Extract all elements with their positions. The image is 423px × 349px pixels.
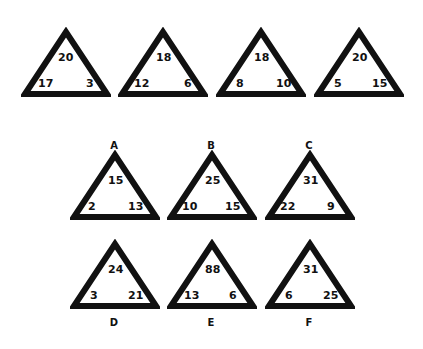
top-number: 18 <box>254 52 269 63</box>
option-triangle-c[interactable]: 31 22 9 <box>265 150 355 222</box>
top-number: 20 <box>58 52 73 63</box>
top-number: 18 <box>156 52 171 63</box>
example-triangle-1: 20 17 3 <box>21 27 111 99</box>
example-triangle-4: 20 5 15 <box>314 27 404 99</box>
option-triangle-e[interactable]: 88 13 6 <box>167 239 257 311</box>
top-number: 31 <box>303 264 318 275</box>
left-number: 12 <box>134 78 149 89</box>
option-label-f: F <box>299 317 319 328</box>
right-number: 9 <box>327 201 335 212</box>
top-number: 88 <box>205 264 220 275</box>
option-triangle-f[interactable]: 31 6 25 <box>265 239 355 311</box>
option-label-e: E <box>201 317 221 328</box>
option-label-d: D <box>104 317 124 328</box>
left-number: 5 <box>334 78 342 89</box>
top-number: 25 <box>205 175 220 186</box>
right-number: 6 <box>184 78 192 89</box>
right-number: 21 <box>128 290 143 301</box>
right-number: 3 <box>86 78 94 89</box>
right-number: 25 <box>323 290 338 301</box>
left-number: 8 <box>236 78 244 89</box>
example-triangle-3: 18 8 10 <box>216 27 306 99</box>
option-triangle-b[interactable]: 25 10 15 <box>167 150 257 222</box>
option-triangle-d[interactable]: 24 3 21 <box>70 239 160 311</box>
right-number: 13 <box>128 201 143 212</box>
left-number: 2 <box>88 201 96 212</box>
top-number: 24 <box>108 264 123 275</box>
top-number: 15 <box>108 175 123 186</box>
left-number: 6 <box>285 290 293 301</box>
option-triangle-a[interactable]: 15 2 13 <box>70 150 160 222</box>
top-number: 31 <box>303 175 318 186</box>
right-number: 10 <box>276 78 291 89</box>
top-number: 20 <box>352 52 367 63</box>
left-number: 13 <box>184 290 199 301</box>
right-number: 15 <box>372 78 387 89</box>
left-number: 22 <box>280 201 295 212</box>
left-number: 3 <box>90 290 98 301</box>
left-number: 10 <box>182 201 197 212</box>
right-number: 15 <box>225 201 240 212</box>
example-triangle-2: 18 12 6 <box>118 27 208 99</box>
right-number: 6 <box>229 290 237 301</box>
left-number: 17 <box>38 78 53 89</box>
